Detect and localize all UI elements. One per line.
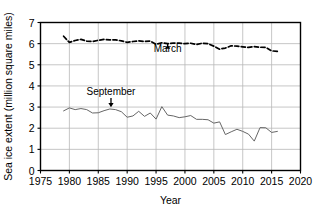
y-tick-label: 7 <box>29 17 35 29</box>
x-tick-label: 2020 <box>289 175 313 187</box>
y-tick-label: 1 <box>29 143 35 155</box>
x-tick-label: 2015 <box>260 175 284 187</box>
y-axis-title: Sea ice extent (million square miles) <box>2 12 14 181</box>
annotation-label-september: September <box>87 86 137 97</box>
x-tick-label: 2000 <box>173 175 197 187</box>
x-tick-label: 1995 <box>144 175 168 187</box>
x-tick-label: 1990 <box>115 175 139 187</box>
x-axis-title: Year <box>160 194 182 206</box>
y-tick-label: 0 <box>29 165 35 177</box>
chart-canvas: 1975198019851990199520002005201020152020… <box>0 0 323 211</box>
x-tick-label: 2005 <box>202 175 226 187</box>
x-tick-label: 1985 <box>87 175 111 187</box>
y-tick-label: 5 <box>29 59 35 71</box>
y-tick-label: 3 <box>29 101 35 113</box>
y-tick-label: 2 <box>29 122 35 134</box>
x-tick-label: 2010 <box>231 175 255 187</box>
sea-ice-extent-chart: 1975198019851990199520002005201020152020… <box>0 0 323 211</box>
y-tick-label: 6 <box>29 38 35 50</box>
x-tick-label: 1980 <box>58 175 82 187</box>
y-tick-label: 4 <box>29 80 35 92</box>
